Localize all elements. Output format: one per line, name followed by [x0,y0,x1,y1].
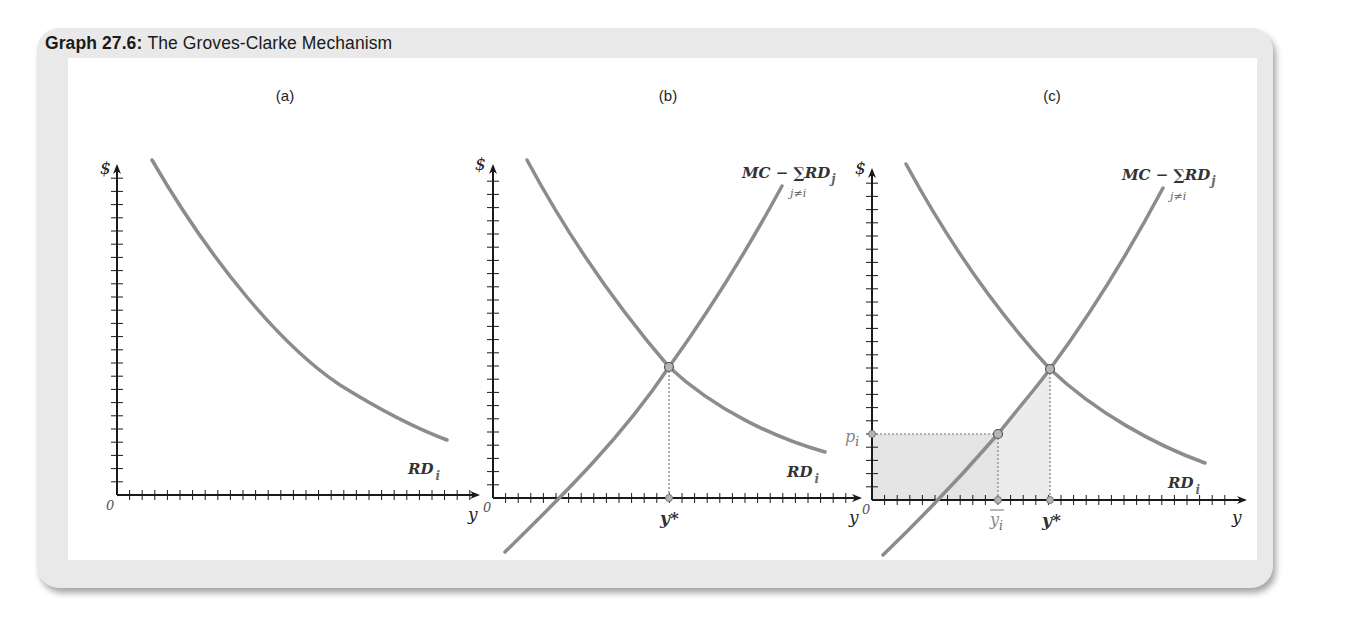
panel-c-report-point [994,430,1003,439]
panel-b-rd-label: RDi [786,463,819,486]
panel-c-mc-label: MC − ∑RDj [1121,166,1216,188]
panel-c-label: (c) [1043,87,1061,104]
panel-a-rd-curve [152,160,447,440]
panel-c-pi-point [869,431,876,438]
panel-c-rd-label: RDi [1167,474,1200,497]
panel-a-dollar-label: $ [100,158,111,178]
panel-c-ybar-label: yi [989,510,1003,533]
panel-a-origin: 0 [106,498,114,513]
panel-c-origin: 0 [862,502,870,517]
panel-c-y-label: y [1231,507,1242,527]
panel-b-rd-curve [527,160,825,452]
panel-a-y-label: y [467,504,478,524]
panel-c-mc-sum-index: j≠i [1167,190,1186,203]
panel-b-dollar-label: $ [475,154,486,174]
charts-svg: (a) $ y 0 RDi (b) $ y 0 y* RDi MC − ∑RDj… [0,0,1347,628]
panel-c-ystar-point [1047,497,1054,504]
panel-c-ybar-point [995,497,1002,504]
panel-c-payment-rect [872,434,998,500]
panel-b-origin: 0 [483,500,491,515]
panel-c-rd-curve [906,164,1205,463]
panel-c-pi-label: pi [845,427,859,449]
panel-b-ystar-label: y* [659,508,679,528]
panel-b-equilibrium-point [665,363,674,372]
panel-b-label: (b) [659,87,677,104]
panel-c-equilibrium-point [1046,365,1055,374]
panel-a-rd-label: RDi [407,460,440,483]
panel-b-y-label: y [848,507,859,527]
panel-b: (b) $ y 0 y* RDi MC − ∑RDj j≠i [475,87,860,552]
panel-c: (c) $ y 0 pi yi y* RDi MC − ∑RDj j≠i [845,87,1245,555]
panel-c-dollar-label: $ [855,158,866,178]
panel-b-mc-sum-index: j≠i [787,187,806,200]
panel-b-ystar-point [666,495,673,502]
panel-c-ystar-label: y* [1041,510,1061,530]
panel-a: (a) $ y 0 RDi [100,87,478,524]
panel-b-mc-label: MC − ∑RDj [741,164,836,186]
panel-a-label: (a) [276,87,294,104]
panel-c-area-under-mc [998,369,1050,500]
